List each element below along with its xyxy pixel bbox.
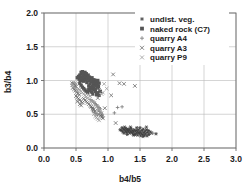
data-point	[88, 94, 92, 98]
data-point	[109, 94, 113, 98]
legend-label: quarry A3	[150, 44, 188, 53]
data-point	[111, 73, 115, 77]
x-axis-tick-labels: 0.00.51.01.52.02.53.0	[38, 154, 242, 164]
x-tick-label: 3.0	[230, 154, 242, 164]
series-undist-veg	[118, 126, 157, 139]
data-point	[118, 81, 122, 85]
x-tick-label: 2.5	[198, 154, 210, 164]
chart-canvas: 0.00.51.01.52.02.53.0 0.00.51.01.52.0 un…	[0, 0, 252, 189]
legend-marker-icon	[140, 27, 144, 31]
y-tick-label: 2.0	[26, 8, 38, 18]
legend-label: naked rock (C7)	[150, 25, 210, 34]
data-point	[102, 82, 106, 86]
legend-label: quarry P9	[150, 53, 187, 62]
y-tick-label: 1.0	[26, 76, 38, 86]
x-tick-label: 1.5	[134, 154, 146, 164]
y-tick-label: 0.0	[26, 143, 38, 153]
y-axis-title: b3/b4	[3, 71, 13, 93]
x-tick-label: 2.0	[166, 154, 178, 164]
legend-item[interactable]: naked rock (C7)	[140, 25, 210, 34]
data-point	[145, 126, 149, 129]
scatter-chart-figure: 0.00.51.01.52.02.53.0 0.00.51.01.52.0 un…	[0, 0, 252, 189]
data-point	[116, 106, 120, 110]
legend-label: undist. veg.	[150, 15, 194, 24]
data-point	[114, 121, 118, 125]
data-point	[120, 105, 124, 109]
data-point	[103, 106, 107, 110]
chart-legend: undist. veg.naked rock (C7)quarry A4quar…	[135, 12, 229, 65]
x-tick-label: 0.0	[38, 154, 50, 164]
y-tick-label: 0.5	[26, 109, 38, 119]
legend-label: quarry A4	[150, 34, 188, 43]
y-axis-tick-labels: 0.00.51.01.52.0	[26, 8, 38, 153]
x-tick-label: 0.5	[70, 154, 82, 164]
y-tick-label: 1.5	[26, 42, 38, 52]
data-point	[85, 72, 88, 75]
data-point	[154, 132, 158, 135]
data-point	[97, 119, 101, 123]
x-axis-title: b4/b5	[119, 174, 141, 184]
x-tick-label: 1.0	[102, 154, 114, 164]
data-point	[122, 82, 126, 86]
data-point	[133, 84, 137, 88]
